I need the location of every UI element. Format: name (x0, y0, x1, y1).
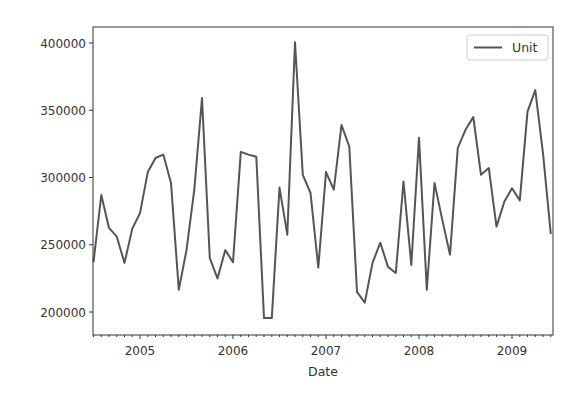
x-tick-label: 2006 (218, 344, 249, 358)
x-tick-label: 2005 (125, 344, 156, 358)
y-tick-label: 350000 (40, 104, 86, 118)
x-tick-label: 2008 (404, 344, 435, 358)
legend: Unit (467, 35, 548, 60)
x-axis-label: Date (308, 364, 338, 379)
x-tick-label: 2007 (311, 344, 342, 358)
plot-frame (93, 27, 553, 335)
series-line-unit (94, 42, 551, 318)
y-tick-label: 300000 (40, 171, 86, 185)
line-chart: 200000250000300000350000400000 200520062… (0, 0, 586, 396)
plot-area (94, 42, 551, 318)
x-tick-label: 2009 (497, 344, 528, 358)
y-axis: 200000250000300000350000400000 (40, 37, 93, 320)
x-axis: 20052006200720082009 (94, 335, 551, 358)
y-tick-label: 250000 (40, 238, 86, 252)
y-tick-label: 400000 (40, 37, 86, 51)
legend-label: Unit (512, 40, 538, 55)
y-tick-label: 200000 (40, 306, 86, 320)
